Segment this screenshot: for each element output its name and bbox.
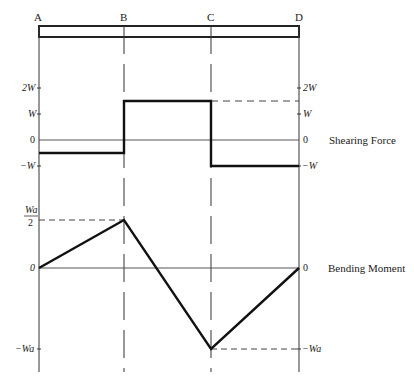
sf-label-left-0: 0 bbox=[30, 134, 35, 145]
bm-label-wa2-numerator: Wa bbox=[25, 204, 37, 215]
bm-label-right-0: 0 bbox=[303, 262, 308, 273]
point-label-a: A bbox=[34, 11, 42, 23]
bm-label-right-neg-wa: −Wa bbox=[302, 343, 321, 354]
sf-label-right-0: 0 bbox=[303, 134, 308, 145]
beam bbox=[39, 26, 299, 37]
sf-label-right-w: W bbox=[303, 108, 313, 119]
bm-title: Bending Moment bbox=[328, 262, 405, 274]
diagram-canvas: A B C D 2W W 0 −W 2W W 0 bbox=[0, 0, 414, 379]
sf-label-left-2w: 2W bbox=[22, 82, 37, 93]
sf-curve bbox=[39, 101, 299, 166]
shear-force-diagram: 2W W 0 −W 2W W 0 −W Shearing Force bbox=[20, 82, 396, 171]
bm-curve bbox=[39, 220, 299, 349]
sfd-bmd-diagram: A B C D 2W W 0 −W 2W W 0 bbox=[0, 0, 414, 379]
sf-label-left-w: W bbox=[28, 108, 38, 119]
bm-label-left-0: 0 bbox=[30, 262, 35, 273]
sf-title: Shearing Force bbox=[329, 134, 396, 146]
bending-moment-diagram: Wa 2 0 0 −Wa −Wa Bending Moment bbox=[15, 204, 405, 354]
bm-label-left-neg-wa: −Wa bbox=[15, 343, 34, 354]
point-label-c: C bbox=[207, 11, 214, 23]
sf-label-right-neg-w: −W bbox=[302, 160, 319, 171]
bm-label-wa2-denominator: 2 bbox=[28, 217, 33, 228]
point-label-b: B bbox=[120, 11, 127, 23]
point-label-d: D bbox=[295, 11, 303, 23]
sf-label-left-neg-w: −W bbox=[20, 160, 37, 171]
sf-label-right-2w: 2W bbox=[303, 82, 318, 93]
